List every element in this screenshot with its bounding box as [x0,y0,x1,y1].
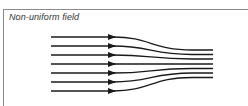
field-line-converging-curve [113,78,213,92]
field-line-converging-curve [113,37,213,50]
field-lines-group [51,37,213,91]
field-lines-diagram [0,0,248,106]
field-line-converging-curve [113,69,213,74]
field-line-converging-curve [113,55,213,59]
